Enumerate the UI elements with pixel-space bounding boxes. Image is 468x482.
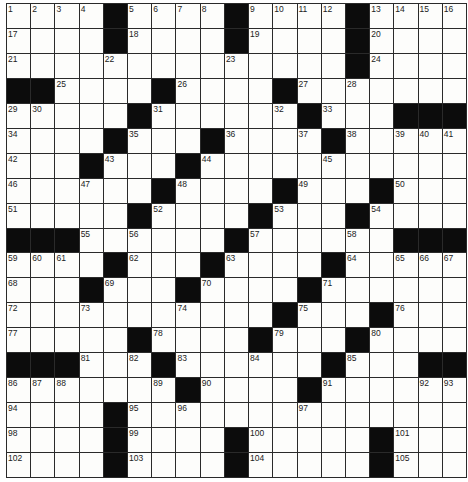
- grid-cell[interactable]: 48: [176, 179, 199, 203]
- grid-cell[interactable]: 91: [322, 378, 345, 402]
- grid-cell[interactable]: [176, 253, 199, 277]
- grid-cell[interactable]: [346, 179, 369, 203]
- grid-cell[interactable]: [370, 129, 393, 153]
- grid-cell[interactable]: [80, 79, 103, 103]
- grid-cell[interactable]: 28: [346, 79, 369, 103]
- grid-cell[interactable]: [201, 179, 224, 203]
- grid-cell[interactable]: 2: [31, 4, 54, 28]
- grid-cell[interactable]: [128, 303, 151, 327]
- grid-cell[interactable]: [394, 29, 417, 53]
- grid-cell[interactable]: 4: [80, 4, 103, 28]
- grid-cell[interactable]: [201, 204, 224, 228]
- grid-cell[interactable]: [322, 204, 345, 228]
- grid-cell[interactable]: 80: [370, 328, 393, 352]
- grid-cell[interactable]: [225, 154, 248, 178]
- grid-cell[interactable]: [152, 278, 175, 302]
- grid-cell[interactable]: [225, 104, 248, 128]
- grid-cell[interactable]: [201, 54, 224, 78]
- grid-cell[interactable]: 76: [394, 303, 417, 327]
- grid-cell[interactable]: [273, 54, 296, 78]
- grid-cell[interactable]: 85: [346, 353, 369, 377]
- grid-cell[interactable]: [322, 403, 345, 427]
- grid-cell[interactable]: [394, 353, 417, 377]
- grid-cell[interactable]: 54: [370, 204, 393, 228]
- grid-cell[interactable]: 26: [176, 79, 199, 103]
- grid-cell[interactable]: [443, 179, 466, 203]
- grid-cell[interactable]: [346, 453, 369, 477]
- grid-cell[interactable]: [128, 54, 151, 78]
- grid-cell[interactable]: [298, 453, 321, 477]
- grid-cell[interactable]: 103: [128, 453, 151, 477]
- grid-cell[interactable]: 93: [443, 378, 466, 402]
- grid-cell[interactable]: 11: [298, 4, 321, 28]
- grid-cell[interactable]: [394, 204, 417, 228]
- grid-cell[interactable]: [31, 204, 54, 228]
- grid-cell[interactable]: [201, 303, 224, 327]
- grid-cell[interactable]: [55, 54, 78, 78]
- grid-cell[interactable]: 84: [249, 353, 272, 377]
- grid-cell[interactable]: [31, 278, 54, 302]
- grid-cell[interactable]: [152, 453, 175, 477]
- grid-cell[interactable]: [176, 428, 199, 452]
- grid-cell[interactable]: [80, 403, 103, 427]
- grid-cell[interactable]: 38: [346, 129, 369, 153]
- grid-cell[interactable]: [176, 54, 199, 78]
- grid-cell[interactable]: 66: [419, 253, 442, 277]
- grid-cell[interactable]: 63: [225, 253, 248, 277]
- grid-cell[interactable]: 97: [298, 403, 321, 427]
- grid-cell[interactable]: 94: [7, 403, 30, 427]
- grid-cell[interactable]: [298, 229, 321, 253]
- grid-cell[interactable]: [128, 278, 151, 302]
- grid-cell[interactable]: 62: [128, 253, 151, 277]
- grid-cell[interactable]: [201, 229, 224, 253]
- grid-cell[interactable]: [201, 353, 224, 377]
- grid-cell[interactable]: [55, 278, 78, 302]
- grid-cell[interactable]: [104, 204, 127, 228]
- grid-cell[interactable]: [298, 328, 321, 352]
- grid-cell[interactable]: 82: [128, 353, 151, 377]
- grid-cell[interactable]: 60: [31, 253, 54, 277]
- grid-cell[interactable]: [443, 303, 466, 327]
- grid-cell[interactable]: 21: [7, 54, 30, 78]
- grid-cell[interactable]: [346, 428, 369, 452]
- grid-cell[interactable]: [31, 54, 54, 78]
- grid-cell[interactable]: 87: [31, 378, 54, 402]
- grid-cell[interactable]: [419, 278, 442, 302]
- grid-cell[interactable]: [31, 328, 54, 352]
- grid-cell[interactable]: [273, 278, 296, 302]
- grid-cell[interactable]: [370, 353, 393, 377]
- grid-cell[interactable]: 32: [273, 104, 296, 128]
- grid-cell[interactable]: [104, 378, 127, 402]
- grid-cell[interactable]: [225, 303, 248, 327]
- grid-cell[interactable]: [104, 328, 127, 352]
- grid-cell[interactable]: [225, 403, 248, 427]
- grid-cell[interactable]: 36: [225, 129, 248, 153]
- grid-cell[interactable]: [249, 253, 272, 277]
- grid-cell[interactable]: 105: [394, 453, 417, 477]
- grid-cell[interactable]: [322, 328, 345, 352]
- grid-cell[interactable]: 72: [7, 303, 30, 327]
- grid-cell[interactable]: 74: [176, 303, 199, 327]
- grid-cell[interactable]: 3: [55, 4, 78, 28]
- grid-cell[interactable]: [273, 428, 296, 452]
- grid-cell[interactable]: [394, 328, 417, 352]
- grid-cell[interactable]: [128, 378, 151, 402]
- grid-cell[interactable]: 92: [419, 378, 442, 402]
- grid-cell[interactable]: 89: [152, 378, 175, 402]
- grid-cell[interactable]: [104, 353, 127, 377]
- grid-cell[interactable]: [55, 179, 78, 203]
- grid-cell[interactable]: [225, 179, 248, 203]
- grid-cell[interactable]: [443, 428, 466, 452]
- grid-cell[interactable]: 59: [7, 253, 30, 277]
- grid-cell[interactable]: 34: [7, 129, 30, 153]
- grid-cell[interactable]: [443, 29, 466, 53]
- grid-cell[interactable]: [419, 154, 442, 178]
- grid-cell[interactable]: 61: [55, 253, 78, 277]
- grid-cell[interactable]: [322, 29, 345, 53]
- grid-cell[interactable]: [443, 154, 466, 178]
- grid-cell[interactable]: 17: [7, 29, 30, 53]
- grid-cell[interactable]: [31, 453, 54, 477]
- grid-cell[interactable]: [201, 79, 224, 103]
- grid-cell[interactable]: [346, 378, 369, 402]
- grid-cell[interactable]: [80, 204, 103, 228]
